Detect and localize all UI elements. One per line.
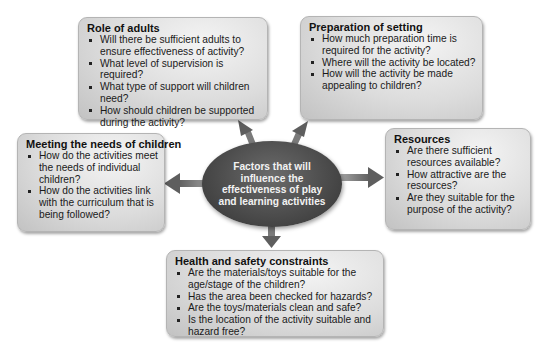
question-list: Are there sufficient resources available… [394,145,524,216]
list-item: What level of supervision is required? [87,58,261,82]
list-item: Are the toys/materials clean and safe? [175,302,377,314]
arrow-down-icon [262,224,281,248]
meeting-needs-box: Meeting the needs of children How do the… [17,133,165,232]
list-item: Where will the activity be located? [309,57,476,69]
list-item: Has the area been checked for hazards? [175,291,377,303]
question-list: How do the activities meet the needs of … [26,150,158,221]
health-safety-box: Health and safety constraints Are the ma… [166,250,384,337]
central-topic-ellipse: Factors that will influence the effectiv… [202,141,342,227]
list-item: What type of support will children need? [87,81,261,105]
list-item: How will the activity be made appealing … [309,68,476,92]
list-item: Are there sufficient resources available… [394,145,524,169]
central-topic-label: Factors that will influence the effectiv… [214,161,330,207]
list-item: Are the materials/toys suitable for the … [175,267,377,291]
resources-box: Resources Are there sufficient resources… [385,128,531,230]
role-of-adults-box: Role of adults Will there be sufficient … [78,17,268,120]
list-item: How do the activities meet the needs of … [26,150,158,185]
question-list: How much preparation time is required fo… [309,33,476,92]
list-item: Will there be sufficient adults to ensur… [87,34,261,58]
list-item: Is the location of the activity suitable… [175,314,377,338]
list-item: How should children be supported during … [87,105,261,129]
box-title: Health and safety constraints [175,255,377,267]
arrow-right-icon [338,167,384,188]
list-item: Are they suitable for the purpose of the… [394,192,524,216]
box-title: Preparation of setting [309,21,476,33]
question-list: Will there be sufficient adults to ensur… [87,34,261,128]
list-item: How much preparation time is required fo… [309,33,476,57]
list-item: How do the activities link with the curr… [26,185,158,220]
box-title: Role of adults [87,22,261,34]
list-item: How attractive are the resources? [394,169,524,193]
box-title: Resources [394,133,524,145]
preparation-of-setting-box: Preparation of setting How much preparat… [300,16,483,120]
box-title: Meeting the needs of children [26,138,158,150]
question-list: Are the materials/toys suitable for the … [175,267,377,338]
